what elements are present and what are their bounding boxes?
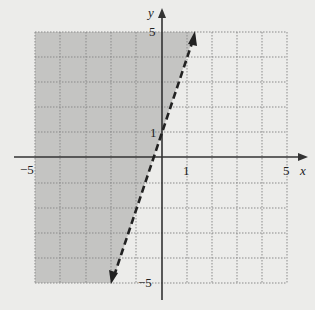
x-axis-arrow-icon xyxy=(298,153,308,161)
x-axis-label: x xyxy=(299,163,306,178)
x-tick-neg5: −5 xyxy=(20,162,34,177)
x-tick-5: 5 xyxy=(283,163,290,178)
y-tick-neg5: −5 xyxy=(138,275,152,290)
y-tick-1: 1 xyxy=(150,125,157,140)
x-tick-1: 1 xyxy=(183,163,190,178)
y-tick-5: 5 xyxy=(149,24,156,39)
y-axis-arrow-icon xyxy=(158,8,166,18)
y-axis-label: y xyxy=(146,5,154,20)
inequality-graph: y x −5 1 5 5 1 −5 xyxy=(0,0,315,310)
